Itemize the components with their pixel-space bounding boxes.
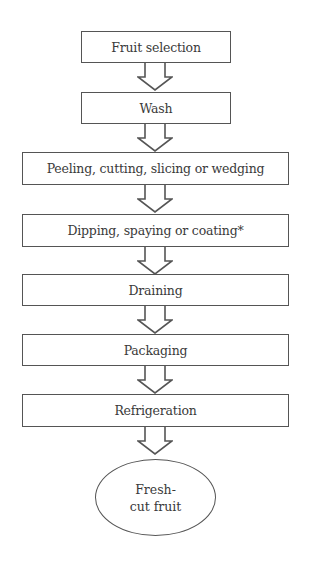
end-label-line1: Fresh-	[135, 481, 176, 498]
down-arrow-icon	[137, 63, 173, 91]
step-fruit-selection: Fruit selection	[81, 31, 231, 63]
step-packaging: Packaging	[22, 334, 289, 366]
down-arrow-icon	[137, 427, 173, 455]
down-arrow-icon	[137, 306, 173, 334]
step-label: Packaging	[124, 343, 188, 358]
step-label: Peeling, cutting, slicing or wedging	[47, 161, 265, 176]
down-arrow-icon	[137, 247, 173, 275]
end-node-fresh-cut-fruit: Fresh- cut fruit	[95, 459, 216, 536]
down-arrow-icon	[137, 366, 173, 394]
down-arrow-icon	[137, 124, 173, 152]
step-label: Dipping, spaying or coating*	[67, 223, 243, 238]
step-draining: Draining	[22, 274, 289, 306]
step-dipping-coating: Dipping, spaying or coating*	[22, 214, 289, 247]
step-label: Fruit selection	[111, 40, 201, 55]
end-label-line2: cut fruit	[130, 498, 182, 515]
step-wash: Wash	[81, 92, 231, 124]
step-refrigeration: Refrigeration	[22, 394, 289, 427]
step-peeling-cutting: Peeling, cutting, slicing or wedging	[22, 152, 289, 185]
down-arrow-icon	[137, 185, 173, 213]
step-label: Draining	[129, 283, 183, 298]
step-label: Refrigeration	[114, 403, 196, 418]
step-label: Wash	[140, 101, 173, 116]
